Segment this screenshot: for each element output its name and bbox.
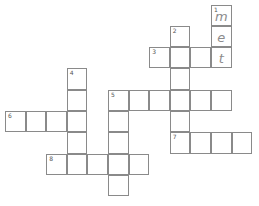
cell-letter: e <box>212 29 231 46</box>
cell-letter: t <box>212 50 231 67</box>
crossword-cell[interactable] <box>190 132 211 153</box>
crossword-cell[interactable] <box>67 111 88 132</box>
crossword-cell[interactable] <box>67 90 88 111</box>
crossword-cell[interactable]: 1m <box>211 5 232 26</box>
crossword-cell[interactable]: 2 <box>170 26 191 47</box>
crossword-cell[interactable]: 8 <box>46 154 67 175</box>
clue-number: 4 <box>70 69 74 76</box>
crossword-cell[interactable] <box>129 154 150 175</box>
crossword-cell[interactable] <box>190 47 211 68</box>
crossword-cell[interactable] <box>129 90 150 111</box>
crossword-cell[interactable] <box>108 111 129 132</box>
clue-number: 7 <box>173 133 177 140</box>
crossword-cell[interactable]: 5 <box>108 90 129 111</box>
crossword-cell[interactable] <box>108 132 129 153</box>
crossword-cell[interactable] <box>170 90 191 111</box>
crossword-cell[interactable] <box>108 175 129 196</box>
clue-number: 5 <box>111 91 115 98</box>
crossword-cell[interactable] <box>232 132 253 153</box>
crossword-cell[interactable] <box>67 132 88 153</box>
crossword-cell[interactable] <box>108 154 129 175</box>
crossword-cell[interactable] <box>67 154 88 175</box>
clue-number: 3 <box>152 48 156 55</box>
clue-number: 8 <box>49 155 53 162</box>
crossword-cell[interactable] <box>170 47 191 68</box>
clue-number: 6 <box>8 112 12 119</box>
crossword-cell[interactable] <box>170 111 191 132</box>
crossword-grid: 1met2734568 <box>0 0 259 206</box>
crossword-cell[interactable] <box>211 90 232 111</box>
crossword-cell[interactable]: 3 <box>149 47 170 68</box>
crossword-cell[interactable] <box>211 132 232 153</box>
crossword-cell[interactable]: 4 <box>67 68 88 89</box>
crossword-cell[interactable]: t <box>211 47 232 68</box>
crossword-cell[interactable] <box>190 90 211 111</box>
crossword-cell[interactable] <box>87 154 108 175</box>
clue-number: 2 <box>173 27 177 34</box>
cell-letter: m <box>212 8 231 25</box>
crossword-cell[interactable]: 7 <box>170 132 191 153</box>
crossword-cell[interactable] <box>170 68 191 89</box>
crossword-cell[interactable]: e <box>211 26 232 47</box>
crossword-cell[interactable] <box>26 111 47 132</box>
crossword-cell[interactable] <box>149 90 170 111</box>
crossword-cell[interactable] <box>46 111 67 132</box>
crossword-cell[interactable]: 6 <box>5 111 26 132</box>
